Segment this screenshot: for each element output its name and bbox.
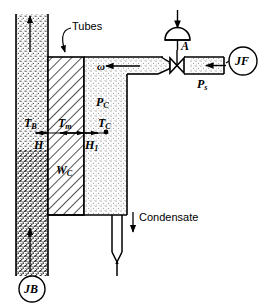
- label-height-h: H: [34, 139, 43, 151]
- label-tc-sub: C: [105, 122, 110, 131]
- label-condensate: Condensate: [139, 212, 198, 223]
- label-condenser-pressure: PC: [96, 96, 109, 110]
- label-metal-temp: Tm: [58, 117, 72, 131]
- label-valve-actuator: A: [181, 40, 189, 52]
- label-tubes: Tubes: [72, 21, 102, 32]
- label-bath-temp: TB: [24, 117, 37, 131]
- tubes-leader-line: [63, 28, 71, 52]
- label-steam-supply-pressure: Ps: [197, 78, 208, 92]
- label-tm-sub: m: [65, 122, 71, 131]
- condensate-drain: [112, 215, 122, 276]
- label-condenser-temp: TC: [98, 117, 111, 131]
- label-wc-base: W: [56, 163, 67, 177]
- label-width-wc: WC: [56, 164, 72, 178]
- label-jb: JB: [24, 283, 38, 295]
- control-valve-body[interactable]: [170, 50, 184, 73]
- label-wc-sub: C: [67, 169, 72, 178]
- label-tb-sub: B: [31, 122, 36, 131]
- figure-canvas: Tubes ω A Ps JF JB PC TC TB Tm H H1 WC C…: [0, 0, 264, 306]
- label-pc-sub: C: [103, 101, 108, 110]
- label-h1-base: H: [85, 138, 94, 152]
- label-omega: ω: [97, 61, 105, 72]
- label-h1-sub: 1: [94, 144, 98, 153]
- label-ps-sub: s: [204, 83, 207, 92]
- label-jf: JF: [235, 55, 249, 67]
- diagram-svg: [0, 0, 264, 306]
- label-height-h1: H1: [85, 139, 98, 153]
- tube-bundle-region: [48, 57, 84, 215]
